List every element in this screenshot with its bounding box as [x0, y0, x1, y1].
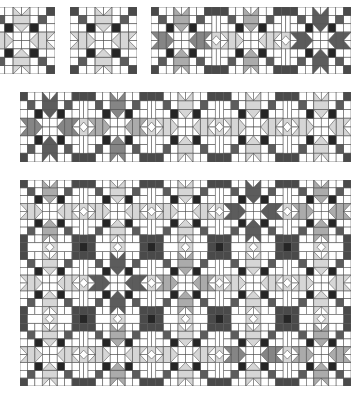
quilt-layout [20, 180, 351, 386]
single-block-a [0, 7, 55, 74]
single-block-b [70, 7, 137, 74]
five-block-row [20, 92, 351, 162]
three-block-strip [151, 7, 351, 74]
quilt-svg [20, 92, 351, 162]
quilt-svg [20, 180, 351, 386]
quilt-svg [151, 7, 351, 74]
quilt-svg [70, 7, 137, 74]
quilt-svg [0, 7, 55, 74]
